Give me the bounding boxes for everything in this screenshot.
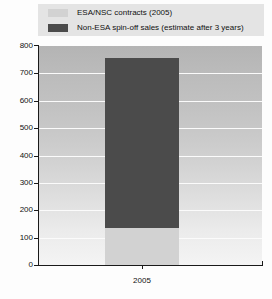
y-axis-label-600: 600 bbox=[3, 97, 33, 105]
y-axis-label-100: 100 bbox=[3, 234, 33, 242]
y-tick-100 bbox=[34, 238, 39, 239]
y-axis-tick-labels: 800 700 600 500 400 300 200 100 0 bbox=[0, 0, 33, 299]
y-tick-500 bbox=[34, 128, 39, 129]
y-tick-400 bbox=[34, 156, 39, 157]
bar-segment-esa-nsc-contracts bbox=[105, 228, 179, 265]
legend-item-label: ESA/NSC contracts (2005) bbox=[77, 8, 172, 17]
light-gray-swatch-icon bbox=[48, 9, 68, 17]
x-axis-line bbox=[38, 265, 263, 266]
y-tick-300 bbox=[34, 183, 39, 184]
y-tick-700 bbox=[34, 73, 39, 74]
legend-item-non-esa-spin-off-sales: Non-ESA spin-off sales (estimate after 3… bbox=[48, 20, 244, 35]
y-axis-label-0: 0 bbox=[3, 261, 33, 269]
y-axis-label-800: 800 bbox=[3, 42, 33, 50]
legend-item-label: Non-ESA spin-off sales (estimate after 3… bbox=[77, 23, 244, 32]
plot-area bbox=[39, 46, 262, 265]
x-axis-label-2005: 2005 bbox=[104, 276, 180, 285]
x-axis-right-cap bbox=[262, 261, 263, 266]
legend-item-esa-nsc-contracts: ESA/NSC contracts (2005) bbox=[48, 5, 172, 20]
stacked-bar-2005 bbox=[105, 58, 179, 265]
dark-gray-swatch-icon bbox=[48, 24, 68, 32]
y-tick-0 bbox=[34, 265, 39, 266]
y-axis-label-200: 200 bbox=[3, 206, 33, 214]
y-axis-label-300: 300 bbox=[3, 179, 33, 187]
x-tick-2005 bbox=[142, 265, 143, 269]
bar-segment-non-esa-spin-off-sales bbox=[105, 58, 179, 228]
y-tick-800 bbox=[34, 45, 39, 46]
y-axis-label-500: 500 bbox=[3, 124, 33, 132]
chart-figure: ESA/NSC contracts (2005) Non-ESA spin-of… bbox=[0, 0, 272, 299]
y-axis-label-400: 400 bbox=[3, 152, 33, 160]
y-tick-600 bbox=[34, 101, 39, 102]
y-axis-label-700: 700 bbox=[3, 69, 33, 77]
y-tick-200 bbox=[34, 210, 39, 211]
chart-legend: ESA/NSC contracts (2005) Non-ESA spin-of… bbox=[38, 4, 264, 36]
